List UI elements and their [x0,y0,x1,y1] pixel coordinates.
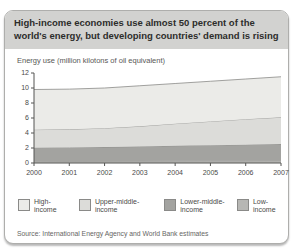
svg-text:12: 12 [21,69,29,76]
chart-subtitle: Energy use (million kilotons of oil equi… [5,49,288,66]
legend-label: High-income [34,198,57,216]
chart-title: High-income economies use almost 50 perc… [5,11,288,49]
svg-text:2001: 2001 [61,169,77,176]
svg-text:4: 4 [25,129,29,136]
svg-text:6: 6 [25,114,29,121]
svg-text:2002: 2002 [97,169,113,176]
source-note: Source: International Energy Agency and … [5,230,288,243]
chart-area: 0246810122000200120022003200420052006200… [5,66,288,194]
legend-item-high-income: High-income [18,198,79,216]
svg-text:0: 0 [25,159,29,166]
legend-swatch-lower-middle-income [164,199,176,211]
legend-item-lower-middle-income: Lower-middle-income [164,198,237,216]
legend-swatch-low-income [237,199,249,211]
svg-text:10: 10 [21,84,29,91]
legend-swatch-high-income [18,199,30,211]
svg-text:2: 2 [25,144,29,151]
svg-text:2000: 2000 [26,169,42,176]
legend-item-low-income: Low-income [237,198,288,216]
legend-swatch-upper-middle-income [79,199,91,211]
legend-item-upper-middle-income: Upper-middle-income [79,198,164,216]
energy-use-chart: 0246810122000200120022003200420052006200… [5,68,290,190]
svg-text:2005: 2005 [203,169,219,176]
chart-legend: High-income Upper-middle-income Lower-mi… [5,194,288,216]
legend-label: Upper-middle-income [95,198,139,216]
chart-card: High-income economies use almost 50 perc… [4,10,289,244]
legend-label: Lower-middle-income [180,198,224,216]
svg-text:2004: 2004 [167,169,183,176]
svg-text:2003: 2003 [132,169,148,176]
svg-text:2006: 2006 [238,169,254,176]
legend-label: Low-income [253,198,276,216]
svg-text:8: 8 [25,99,29,106]
svg-text:2007: 2007 [273,169,289,176]
